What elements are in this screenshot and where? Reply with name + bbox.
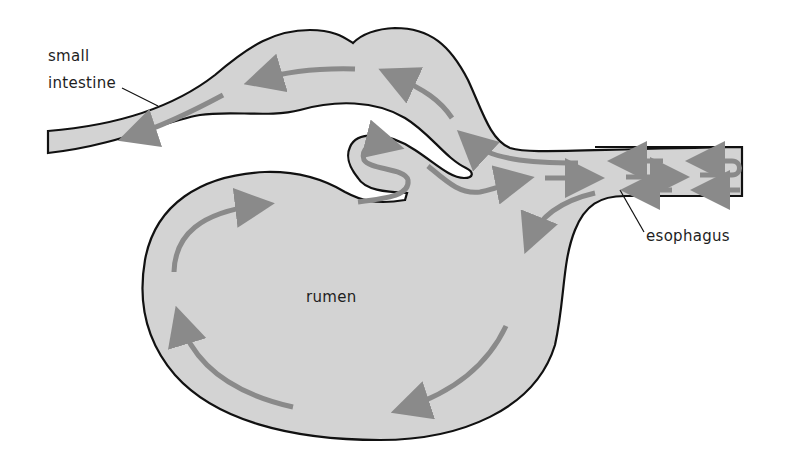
small-intestine-leader [122, 88, 158, 106]
organ-outline [48, 28, 742, 440]
rumen-flow-diagram: small intestine esophagus rumen [0, 0, 789, 458]
label-rumen: rumen [306, 287, 357, 307]
label-small-intestine-2: intestine [48, 73, 116, 93]
label-small-intestine-1: small [48, 46, 89, 66]
label-esophagus: esophagus [646, 226, 730, 246]
